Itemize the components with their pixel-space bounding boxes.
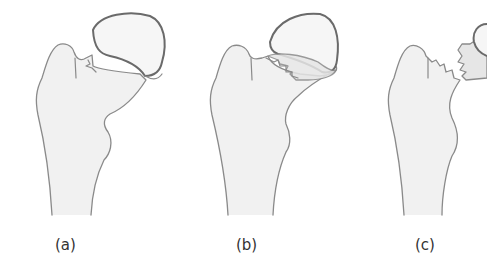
femur-panel-a	[36, 13, 164, 215]
femur-illustrations	[0, 0, 487, 258]
femur-panel-c	[388, 24, 487, 215]
femur-shaft-c	[388, 45, 460, 215]
panel-label-b: (b)	[236, 236, 257, 254]
femoral-head-a	[93, 13, 165, 76]
femur-panel-b	[210, 14, 338, 215]
femur-shaft-a	[36, 44, 146, 215]
panel-label-c: (c)	[415, 236, 435, 254]
panel-label-a: (a)	[55, 236, 76, 254]
